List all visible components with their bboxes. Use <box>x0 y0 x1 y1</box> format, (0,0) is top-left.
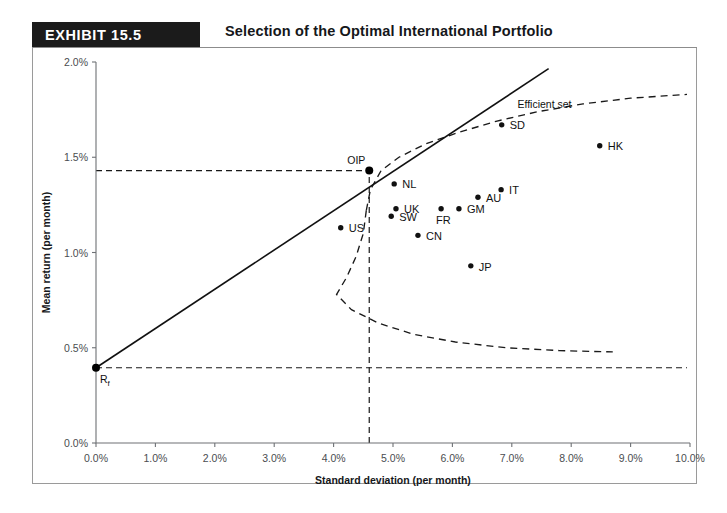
guide-lines-group <box>96 171 687 443</box>
tick-labels-group: 0.0%0.5%1.0%1.5%2.0%0.0%1.0%2.0%3.0%4.0%… <box>64 56 705 464</box>
data-point-label-us: US <box>349 222 364 234</box>
x-tick-label: 9.0% <box>619 452 643 464</box>
data-point-cn <box>415 233 420 238</box>
data-point-label-fr: FR <box>436 214 451 226</box>
axis-lines <box>96 62 690 443</box>
subscript: f <box>108 379 111 388</box>
data-point-sw <box>389 214 394 219</box>
annotation-efficient-set: Efficient set <box>517 98 571 110</box>
data-point-sd <box>499 122 504 127</box>
x-tick-label: 1.0% <box>143 452 167 464</box>
x-tick-label: 5.0% <box>381 452 405 464</box>
special-point-oip <box>365 167 373 175</box>
x-tick-label: 7.0% <box>500 452 524 464</box>
data-point-label-gm: GM <box>467 203 485 215</box>
capital-market-line-group <box>96 69 549 368</box>
special-point-label-rf: Rf <box>100 373 111 388</box>
y-tick-label: 0.5% <box>64 342 88 354</box>
x-tick-label: 0.0% <box>84 452 108 464</box>
x-axis-title: Standard deviation (per month) <box>315 474 471 486</box>
special-point-rf <box>92 364 100 372</box>
axes-group <box>92 62 690 447</box>
data-point-label-it: IT <box>509 184 519 196</box>
special-point-label-oip: OIP <box>347 154 365 166</box>
data-point-fr <box>438 206 443 211</box>
data-point-nl <box>391 181 396 186</box>
exhibit-page: EXHIBIT 15.5 Selection of the Optimal In… <box>0 0 727 513</box>
x-tick-label: 10.0% <box>675 452 705 464</box>
data-point-gm <box>456 206 461 211</box>
efficient-frontier-group <box>337 94 687 352</box>
annotations-group: Efficient set <box>517 98 571 110</box>
data-point-label-nl: NL <box>402 178 416 190</box>
efficient-set-lower <box>337 211 613 352</box>
scatter-plot: 0.0%0.5%1.0%1.5%2.0%0.0%1.0%2.0%3.0%4.0%… <box>0 0 727 513</box>
data-points-group: USNLUKSWCNFRGMAUITJPSDHK <box>338 119 624 273</box>
data-point-jp <box>468 263 473 268</box>
x-tick-label: 3.0% <box>262 452 286 464</box>
data-point-it <box>498 187 503 192</box>
x-tick-label: 6.0% <box>440 452 464 464</box>
data-point-label-jp: JP <box>479 261 492 273</box>
data-point-label-sw: SW <box>399 211 417 223</box>
x-tick-label: 2.0% <box>203 452 227 464</box>
y-tick-label: 0.0% <box>64 437 88 449</box>
data-point-hk <box>597 143 602 148</box>
efficient-set-upper <box>366 94 687 210</box>
data-point-uk <box>393 206 398 211</box>
y-tick-label: 1.0% <box>64 247 88 259</box>
data-point-au <box>475 195 480 200</box>
y-axis-title: Mean return (per month) <box>40 192 52 313</box>
capital-market-line <box>96 69 549 368</box>
data-point-label-cn: CN <box>426 230 442 242</box>
data-point-label-hk: HK <box>608 140 624 152</box>
x-tick-label: 8.0% <box>559 452 583 464</box>
special-points-group: OIPRf <box>92 154 373 388</box>
data-point-label-au: AU <box>486 192 501 204</box>
y-tick-label: 2.0% <box>64 56 88 68</box>
x-tick-label: 4.0% <box>322 452 346 464</box>
y-tick-label: 1.5% <box>64 151 88 163</box>
axis-titles-group: Standard deviation (per month)Mean retur… <box>40 192 471 486</box>
data-point-us <box>338 225 343 230</box>
data-point-label-sd: SD <box>510 119 525 131</box>
